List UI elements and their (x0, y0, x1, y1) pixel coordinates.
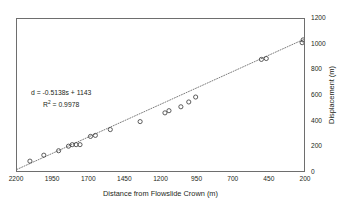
y-tick-label: 1000 (311, 40, 326, 48)
r-squared-label: R2 = 0.9978 (31, 98, 91, 110)
data-point (57, 149, 61, 153)
x-tick-label: 450 (263, 175, 274, 183)
regression-equation-label: d = -0.5138s + 1143 (31, 88, 91, 98)
data-point (187, 100, 191, 104)
y-tick-label: 1200 (311, 14, 326, 22)
data-point (264, 56, 268, 60)
data-point (179, 105, 183, 109)
x-tick-label: 1950 (45, 175, 60, 183)
x-tick-label: 1700 (81, 175, 96, 183)
y-tick-label: 400 (311, 117, 322, 125)
r-squared-value: = 0.9978 (51, 101, 80, 108)
y-tick-label: 200 (311, 142, 322, 150)
x-tick-label: 1450 (117, 175, 132, 183)
x-tick-label: 200 (299, 175, 310, 183)
chart-figure: 22001950170014501200950700450200 0200400… (0, 0, 355, 213)
data-point (108, 128, 112, 132)
x-tick-label: 2200 (9, 175, 24, 183)
data-point (42, 153, 46, 157)
x-tick-label: 950 (191, 175, 202, 183)
y-tick-label: 600 (311, 91, 322, 99)
y-tick-label: 800 (311, 65, 322, 73)
data-point (194, 95, 198, 99)
y-axis-title: Displacement (m) (327, 66, 336, 124)
x-tick-label: 700 (227, 175, 238, 183)
regression-annotation: d = -0.5138s + 1143 R2 = 0.9978 (31, 88, 91, 110)
data-point (138, 120, 142, 124)
data-point (163, 111, 167, 115)
y-tick-label: 0 (311, 168, 315, 176)
x-axis-title: Distance from Flowslide Crown (m) (16, 189, 305, 198)
data-point (167, 109, 171, 113)
x-tick-label: 1200 (153, 175, 168, 183)
data-point (28, 159, 32, 163)
